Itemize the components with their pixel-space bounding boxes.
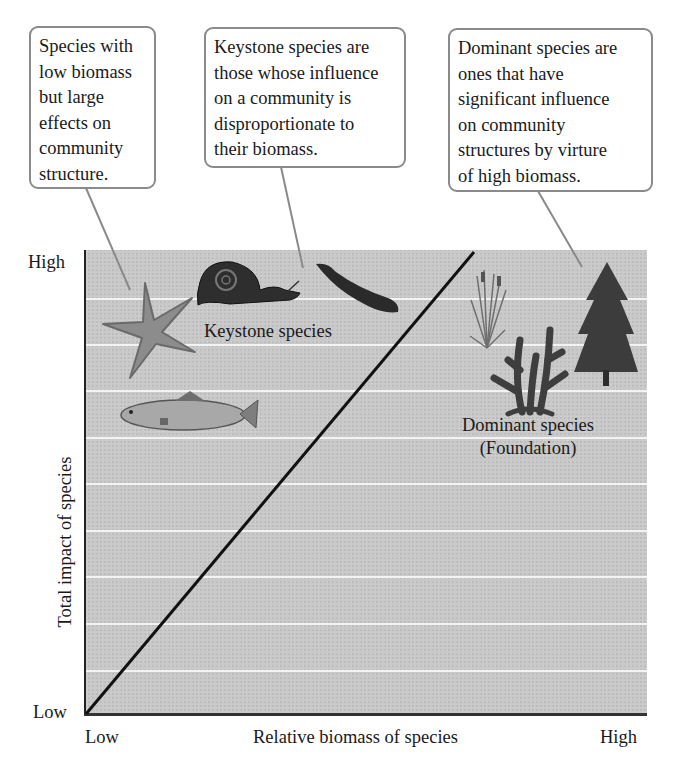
gridline [86,623,647,625]
dominant-species-label: Dominant species (Foundation) [448,414,608,460]
callout-low-biomass: Species with low biomass but large effec… [29,26,156,189]
y-axis-low-label: Low [33,702,67,722]
gridline [86,483,647,485]
callout-dominant-definition: Dominant species are ones that have sign… [448,28,653,192]
y-axis-high-label: High [28,252,65,272]
gridline [86,530,647,532]
y-axis-line [84,250,86,716]
gridline [86,670,647,672]
y-axis-title: Total impact of species [55,457,75,628]
x-axis-low-label: Low [85,727,119,747]
callout-keystone-definition: Keystone species are those whose influen… [204,27,406,168]
gridline [86,344,647,346]
gridline [86,576,647,578]
x-axis-line [84,713,647,716]
gridline [86,390,647,392]
plot-area [86,250,647,714]
keystone-species-label: Keystone species [204,320,332,343]
x-axis-title: Relative biomass of species [253,727,458,747]
x-axis-high-label: High [600,727,637,747]
gridline [86,298,647,300]
